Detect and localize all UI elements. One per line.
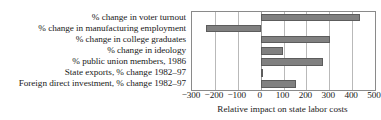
x-tick-label: −200	[205, 90, 224, 100]
x-tick-label: 100	[276, 90, 289, 100]
category-label: % public union members, 1986	[72, 56, 186, 66]
category-label: % change in voter turnout	[92, 12, 186, 22]
x-tick-label: −300	[182, 90, 201, 100]
category-label-row: % change in college graduates	[0, 33, 189, 44]
bar-row	[192, 79, 375, 90]
plot-inner	[192, 12, 375, 90]
bar-row	[192, 45, 375, 56]
bar-row	[192, 68, 375, 79]
bar	[206, 25, 261, 33]
bar-row	[192, 57, 375, 68]
cropped-text-above	[0, 0, 381, 5]
x-axis-tick-labels: −300−200−1000100200300400500	[191, 90, 374, 101]
category-label: % change in college graduates	[76, 34, 186, 44]
x-tick-label: 500	[367, 90, 380, 100]
category-label: % change in manufacturing employment	[38, 23, 186, 33]
bar	[261, 80, 296, 88]
x-tick-label: −100	[227, 90, 246, 100]
x-tick-label: 300	[322, 90, 335, 100]
bar	[261, 14, 360, 22]
chart-figure: % change in voter turnout% change in man…	[0, 0, 381, 120]
category-label-row: % change in manufacturing employment	[0, 22, 189, 33]
category-label-row: % change in voter turnout	[0, 11, 189, 22]
x-tick-label: 0	[257, 90, 262, 100]
category-label-row: Foreign direct investment, % change 1982…	[0, 78, 189, 89]
category-label: State exports, % change 1982–97	[65, 67, 186, 77]
x-tick-label: 200	[299, 90, 312, 100]
bar	[261, 69, 263, 77]
bar-series	[192, 12, 375, 90]
category-label-row: State exports, % change 1982–97	[0, 67, 189, 78]
category-label: % change in ideology	[107, 45, 186, 55]
category-axis-labels: % change in voter turnout% change in man…	[0, 11, 189, 89]
plot-area	[191, 11, 376, 91]
bar	[261, 58, 323, 66]
bar-row	[192, 23, 375, 34]
bar-row	[192, 34, 375, 45]
category-label-row: % public union members, 1986	[0, 56, 189, 67]
bar	[261, 47, 283, 55]
bar-row	[192, 12, 375, 23]
category-label-row: % change in ideology	[0, 44, 189, 55]
bar	[261, 36, 330, 44]
x-tick-label: 400	[344, 90, 357, 100]
category-label: Foreign direct investment, % change 1982…	[19, 78, 186, 88]
x-axis-title: Relative impact on state labor costs	[191, 104, 374, 115]
